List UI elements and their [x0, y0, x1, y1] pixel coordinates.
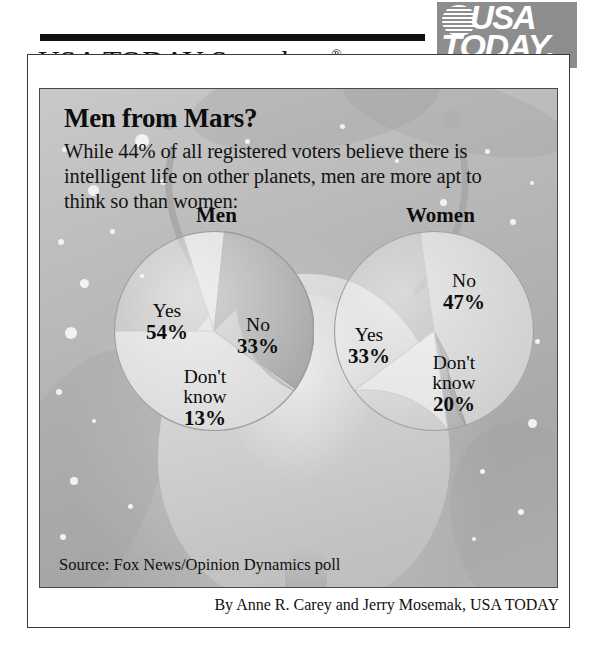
antenna-bulb-right [443, 111, 460, 128]
star [480, 469, 485, 474]
star [472, 537, 476, 541]
women-pie-title: Women [406, 203, 475, 228]
women-yes-label: Yes 33% [336, 325, 402, 367]
women-pie-group: Women [328, 209, 533, 439]
title-rule [40, 34, 425, 41]
snapshot-page: USA TODAY Snapshots® USA TODAY. [0, 0, 596, 648]
men-yes-label: Yes 54% [134, 301, 200, 343]
star [535, 339, 540, 344]
source-text: Source: Fox News/Opinion Dynamics poll [59, 555, 340, 575]
men-pie-title: Men [196, 203, 237, 228]
star [518, 509, 524, 515]
page-title: Men from Mars? [64, 103, 257, 133]
star [60, 534, 66, 540]
men-pie-group: Men [108, 209, 313, 439]
byline-text: By Anne R. Carey and Jerry Mosemak, USA … [214, 596, 559, 614]
star [80, 279, 89, 288]
star [58, 239, 64, 245]
star [92, 419, 96, 423]
snapshot-frame: Men from Mars? While 44% of all register… [27, 54, 570, 628]
star [65, 327, 77, 339]
illustration-panel: Men from Mars? While 44% of all register… [39, 88, 558, 588]
men-no-label: No 33% [228, 315, 288, 357]
men-dont-know-label: Don't know 13% [166, 367, 244, 429]
star [70, 477, 78, 485]
star [128, 504, 133, 509]
star [56, 389, 62, 395]
women-dont-know-label: Don't know 20% [414, 353, 494, 415]
women-no-label: No 47% [432, 271, 496, 313]
star [340, 124, 345, 129]
star [530, 181, 534, 185]
